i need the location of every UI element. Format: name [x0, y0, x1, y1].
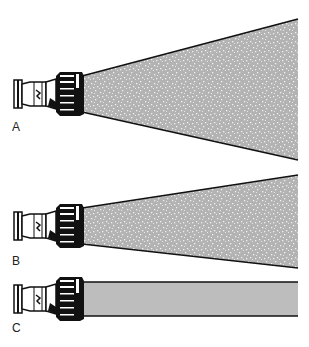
- nozzle-diagram: [0, 0, 309, 347]
- nozzle-a: [14, 72, 84, 116]
- wide-fog-spray: [82, 19, 298, 160]
- panel-a: [14, 19, 298, 160]
- panel-label-a: A: [12, 121, 20, 133]
- straight-stream: [82, 282, 298, 316]
- panel-b: [14, 175, 298, 268]
- nozzle-b: [14, 204, 84, 248]
- narrow-fog-spray: [82, 175, 298, 268]
- panel-label-c: C: [12, 322, 21, 334]
- panel-label-b: B: [12, 255, 20, 267]
- nozzle-c: [14, 277, 84, 321]
- panel-c: [14, 277, 298, 321]
